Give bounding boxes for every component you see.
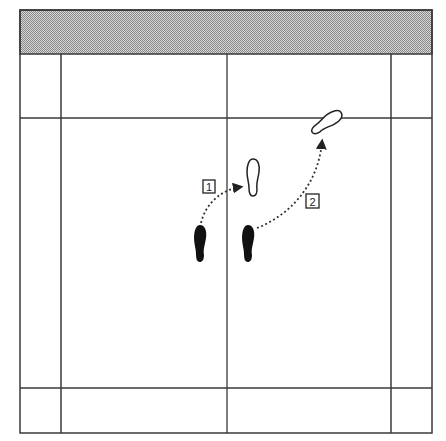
footprint-step2-target-icon [309,107,345,137]
footprint-start-right-icon [242,225,254,262]
court-outer-border [20,10,432,433]
footprint-step1-target-icon [247,159,259,196]
step2-arrow [257,142,322,228]
step2-label-text: 2 [309,196,315,208]
net-band [20,10,432,54]
step1-label-text: 1 [206,181,212,193]
step1-label: 1 [203,180,215,193]
footprint-start-left-icon [194,225,206,262]
step2-label: 2 [306,194,319,208]
badminton-court-diagram: 1 2 [0,0,446,441]
